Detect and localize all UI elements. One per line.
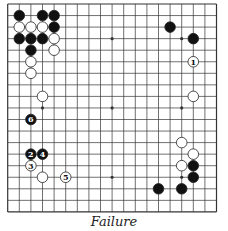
white-stone: [188, 149, 199, 160]
white-stone: [26, 56, 37, 67]
white-stone: [37, 172, 48, 183]
black-stone: [26, 33, 37, 44]
star-point: [180, 106, 183, 109]
black-stone: [188, 33, 199, 44]
black-stone: [37, 10, 48, 21]
white-stone: [176, 137, 187, 148]
move-number: 4: [40, 149, 46, 159]
white-stone: [14, 22, 25, 33]
star-point: [41, 106, 44, 109]
black-stone: [188, 172, 199, 183]
black-stone: [14, 33, 25, 44]
white-stone: [37, 22, 48, 33]
white-stone: [49, 45, 60, 56]
black-stone: 2: [26, 149, 37, 160]
white-stone: 1: [188, 56, 199, 67]
black-stone: [165, 22, 176, 33]
white-stone: [26, 68, 37, 79]
black-stone: [37, 33, 48, 44]
black-stone: [49, 10, 60, 21]
go-board: 162435: [0, 0, 228, 216]
star-point: [111, 106, 114, 109]
move-number: 6: [28, 114, 34, 124]
move-number: 3: [28, 161, 34, 171]
white-stone: [26, 22, 37, 33]
white-stone: 3: [26, 160, 37, 171]
white-stone: [188, 91, 199, 102]
black-stone: [176, 184, 187, 195]
star-point: [111, 37, 114, 40]
black-stone: [153, 184, 164, 195]
black-stone: [188, 160, 199, 171]
white-stone: 5: [60, 172, 71, 183]
move-number: 2: [28, 149, 34, 159]
white-stone: [176, 160, 187, 171]
black-stone: [26, 45, 37, 56]
stones: 162435: [14, 10, 199, 194]
black-stone: [49, 22, 60, 33]
diagram-caption: Failure: [0, 214, 228, 229]
black-stone: 4: [37, 149, 48, 160]
star-point: [111, 176, 114, 179]
move-number: 1: [191, 57, 197, 67]
black-stone: 6: [26, 114, 37, 125]
move-number: 5: [63, 172, 69, 182]
white-stone: [49, 33, 60, 44]
white-stone: [37, 91, 48, 102]
star-point: [180, 37, 183, 40]
star-point: [180, 176, 183, 179]
black-stone: [14, 10, 25, 21]
